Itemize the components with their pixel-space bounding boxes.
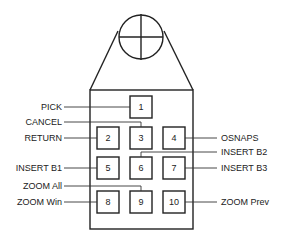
svg-text:2: 2	[105, 133, 110, 143]
label-osnaps: OSNAPS	[221, 133, 259, 143]
label-zoom-all: ZOOM All	[23, 181, 62, 191]
label-insert-b3: INSERT B3	[221, 163, 267, 173]
svg-text:5: 5	[105, 163, 110, 173]
label-pick: PICK	[41, 102, 62, 112]
label-return: RETURN	[25, 133, 63, 143]
svg-text:6: 6	[138, 163, 143, 173]
button-10[interactable]: 10	[163, 191, 185, 213]
button-1[interactable]: 1	[130, 96, 152, 118]
button-6[interactable]: 6	[130, 157, 152, 179]
button-4[interactable]: 4	[163, 127, 185, 149]
button-9[interactable]: 9	[130, 191, 152, 213]
label-zoom-prev: ZOOM Prev	[221, 197, 270, 207]
svg-text:1: 1	[138, 102, 143, 112]
svg-text:9: 9	[138, 197, 143, 207]
label-zoom-win: ZOOM Win	[17, 197, 62, 207]
svg-text:3: 3	[138, 133, 143, 143]
leader-lines	[64, 107, 217, 202]
button-3[interactable]: 3	[130, 127, 152, 149]
crosshair-lens	[119, 14, 163, 60]
button-5[interactable]: 5	[97, 157, 119, 179]
button-8[interactable]: 8	[97, 191, 119, 213]
puck-diagram: 1 2 3 4 5 6 7 8 9 10 PICK CANCEL RETURN …	[0, 0, 286, 240]
svg-text:7: 7	[171, 163, 176, 173]
svg-text:4: 4	[171, 133, 176, 143]
button-2[interactable]: 2	[97, 127, 119, 149]
label-insert-b2: INSERT B2	[221, 147, 267, 157]
svg-text:8: 8	[105, 197, 110, 207]
label-insert-b1: INSERT B1	[16, 163, 62, 173]
label-cancel: CANCEL	[25, 117, 62, 127]
button-7[interactable]: 7	[163, 157, 185, 179]
svg-text:10: 10	[169, 197, 179, 207]
